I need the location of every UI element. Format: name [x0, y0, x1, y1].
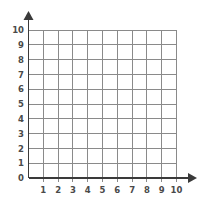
y-axis-tick-label: 10 — [12, 25, 24, 35]
y-axis-tick-label: 2 — [18, 144, 24, 154]
y-axis-tick-labels: 012345678910 — [12, 25, 24, 183]
vertical-gridlines — [43, 30, 176, 182]
y-axis-tick-label: 3 — [18, 129, 24, 139]
x-axis-tick-label: 4 — [85, 185, 91, 195]
x-axis-arrowhead-icon — [188, 173, 197, 183]
coordinate-grid-figure: 12345678910 012345678910 — [0, 0, 206, 210]
y-axis-tick-label: 8 — [18, 55, 24, 65]
coordinate-grid-canvas: 12345678910 012345678910 — [0, 0, 206, 210]
x-axis-tick-label: 9 — [159, 185, 165, 195]
y-axis-arrowhead-icon — [24, 11, 34, 20]
x-axis-tick-label: 7 — [129, 185, 135, 195]
y-axis-tick-label: 4 — [18, 114, 24, 124]
x-axis-tick-label: 10 — [171, 185, 183, 195]
x-axis-tick-label: 5 — [100, 185, 106, 195]
y-axis-tick-label: 6 — [18, 84, 24, 94]
y-axis-tick-label: 5 — [18, 99, 24, 109]
y-axis-tick-label: 7 — [18, 70, 24, 80]
y-axis-tick-label: 1 — [18, 158, 24, 168]
x-axis-tick-label: 3 — [70, 185, 76, 195]
x-axis-tick-labels: 12345678910 — [40, 185, 182, 195]
y-axis-tick-label: 9 — [18, 40, 24, 50]
x-axis-tick-label: 1 — [40, 185, 46, 195]
x-axis-tick-label: 2 — [55, 185, 61, 195]
y-axis-tick-label: 0 — [18, 173, 24, 183]
x-axis-tick-label: 6 — [114, 185, 120, 195]
x-axis-tick-label: 8 — [144, 185, 150, 195]
